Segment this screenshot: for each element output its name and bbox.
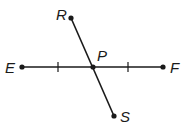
label-e: E: [5, 59, 16, 76]
point-r: [68, 15, 73, 20]
label-r: R: [56, 6, 67, 23]
geometry-diagram: E F P R S: [0, 0, 187, 127]
label-f: F: [170, 59, 180, 76]
point-f: [160, 64, 165, 69]
label-s: S: [120, 108, 130, 125]
point-p: [90, 64, 95, 69]
label-p: P: [97, 47, 107, 64]
point-e: [19, 64, 24, 69]
point-s: [111, 113, 116, 118]
